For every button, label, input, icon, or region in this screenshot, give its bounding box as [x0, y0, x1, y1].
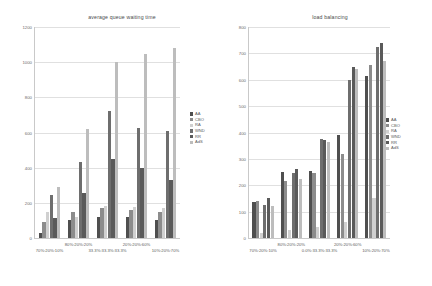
- legend-item: CBO: [190, 118, 205, 122]
- legend-swatch-icon: [386, 135, 389, 138]
- legend-swatch-icon: [190, 129, 193, 132]
- legend-item: AdS: [190, 140, 205, 144]
- legend-item: RR: [190, 135, 205, 139]
- bar-ads: [86, 129, 89, 238]
- bar-groups-left: [35, 27, 180, 238]
- x-axis-tick-label: 0.0%:33.3%:33.3%: [302, 248, 338, 253]
- bar-rr: [267, 198, 270, 238]
- bar-aa: [309, 171, 312, 238]
- legend-swatch-icon: [386, 147, 389, 150]
- legend-swatch-icon: [190, 141, 193, 144]
- legend-swatch-icon: [190, 112, 193, 115]
- legend-item: AdS: [386, 146, 401, 150]
- plot-area-right: 0100200300400500600700800 70%:20%:10%80%…: [248, 27, 390, 239]
- bar-rr: [352, 67, 355, 238]
- bar-cbo: [100, 208, 103, 238]
- chart-panel-average-queue-waiting-time: average queue waiting time 0200400600800…: [0, 0, 216, 286]
- bar-ads: [144, 54, 147, 238]
- bar-aa: [337, 135, 340, 238]
- bar-aa: [252, 202, 255, 238]
- bar-cbo: [312, 173, 315, 238]
- bar-wnd: [166, 131, 169, 238]
- y-axis-tick-label: 800: [239, 25, 246, 30]
- bar-wnd: [348, 80, 351, 238]
- bar-rr: [295, 169, 298, 238]
- bar-aa: [155, 220, 158, 238]
- chart-title-right: load balancing: [216, 14, 432, 20]
- bar-cbo: [256, 201, 259, 238]
- bar-wnd: [79, 162, 82, 238]
- bar-rr: [82, 193, 85, 238]
- legend-item-label: AdS: [195, 140, 203, 144]
- plot-area-left: 020040060080010001200 70%:20%:10%80%:20%…: [34, 27, 180, 239]
- bar-ra: [75, 217, 78, 238]
- legend-item-label: AA: [391, 118, 396, 122]
- y-axis-tick-label: 200: [25, 200, 32, 205]
- legend-item-label: RR: [391, 141, 397, 145]
- legend-item-label: RR: [195, 135, 201, 139]
- y-axis-tick-label: 600: [239, 77, 246, 82]
- y-axis-tick-label: 1000: [22, 60, 32, 65]
- legend-swatch-icon: [190, 124, 193, 127]
- bar-ra: [162, 208, 165, 238]
- x-axis-tick-label: 20%:20%:60%: [334, 242, 361, 247]
- bar-aa: [281, 172, 284, 238]
- x-axis-labels-left: 70%:20%:10%80%:20%:20%33.3%:33.3%:33.3%2…: [35, 238, 180, 264]
- x-axis-tick-label: 33.3%:33.3%:33.3%: [89, 248, 127, 253]
- y-axis-tick-label: 1200: [22, 25, 32, 30]
- legend-item: AA: [386, 118, 401, 122]
- bar-rr: [53, 218, 56, 238]
- bar-ra: [372, 198, 375, 238]
- bar-ads: [271, 206, 274, 238]
- legend-item-label: AdS: [391, 146, 399, 150]
- x-axis-labels-right: 70%:20%:10%80%:20%:20%0.0%:33.3%:33.3%20…: [249, 238, 390, 264]
- bar-group: [281, 27, 302, 238]
- legend-swatch-icon: [386, 130, 389, 133]
- bar-cbo: [284, 181, 287, 238]
- chart-panel-load-balancing: load balancing 0100200300400500600700800…: [216, 0, 432, 286]
- legend-swatch-icon: [190, 118, 193, 121]
- legend-item: CBO: [386, 124, 401, 128]
- bar-wnd: [263, 205, 266, 238]
- x-axis-tick-label: 20%:20%:60%: [123, 242, 150, 247]
- legend-item-label: WND: [195, 129, 205, 133]
- legend-swatch-icon: [386, 141, 389, 144]
- x-axis-tick-label: 80%:20%:20%: [65, 242, 92, 247]
- bar-ra: [46, 212, 49, 238]
- bar-cbo: [129, 210, 132, 238]
- bar-aa: [97, 217, 100, 238]
- legend-swatch-icon: [386, 124, 389, 127]
- bar-group: [337, 27, 358, 238]
- legend-item: WND: [386, 135, 401, 139]
- legend-item-label: RA: [391, 129, 397, 133]
- legend-item: RR: [386, 141, 401, 145]
- y-axis-tick-label: 100: [239, 209, 246, 214]
- bar-ads: [299, 179, 302, 238]
- bar-ads: [115, 62, 118, 238]
- y-axis-tick-label: 300: [239, 156, 246, 161]
- bar-rr: [111, 159, 114, 238]
- bar-ads: [57, 187, 60, 238]
- bar-group: [68, 27, 89, 238]
- bar-ads: [327, 142, 330, 238]
- y-axis-tick-label: 0: [30, 236, 32, 241]
- bar-wnd: [50, 195, 53, 238]
- legend-left: AACBORAWNDRRAdS: [190, 112, 205, 145]
- bar-aa: [365, 76, 368, 238]
- bar-rr: [140, 168, 143, 238]
- legend-item-label: WND: [391, 135, 401, 139]
- bar-ra: [316, 227, 319, 238]
- bar-group: [155, 27, 176, 238]
- bar-ads: [355, 69, 358, 238]
- y-axis-tick-label: 0: [244, 236, 246, 241]
- y-axis-tick-label: 500: [239, 104, 246, 109]
- bar-ra: [133, 207, 136, 238]
- bar-wnd: [376, 47, 379, 238]
- bar-group: [126, 27, 147, 238]
- y-axis-tick-label: 700: [239, 51, 246, 56]
- legend-item: AA: [190, 112, 205, 116]
- bar-cbo: [71, 212, 74, 238]
- y-axis-tick-label: 200: [239, 183, 246, 188]
- bar-wnd: [108, 111, 111, 238]
- bar-ads: [173, 48, 176, 238]
